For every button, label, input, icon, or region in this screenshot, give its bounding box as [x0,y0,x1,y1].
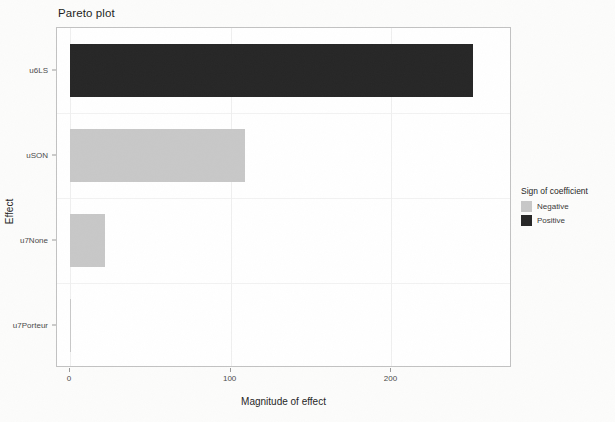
plot-area [57,28,510,366]
bar-u6LS [70,44,474,97]
x-axis-title: Magnitude of effect [56,396,511,407]
y-tick-label-uSON: uSON [26,150,52,159]
bar-u7None [70,214,105,267]
x-tick-mark [69,368,70,372]
x-tick-label-100: 100 [223,374,236,383]
page-title: Pareto plot [58,7,115,19]
y-tick-mark [52,69,56,70]
x-tick-label-200: 200 [384,374,397,383]
y-axis-title-label: Effect [5,198,16,223]
legend-entries: NegativePositive [521,200,613,227]
y-tick-mark [52,324,56,325]
gridline-horizontal [57,113,510,114]
legend-swatch-icon [521,201,532,212]
legend-label: Negative [537,202,569,211]
y-tick-label-u7None: u7None [20,235,52,244]
y-axis-title: Effect [2,0,18,422]
legend-title: Sign of coefficient [521,186,613,196]
y-tick-label-u7Porteur: u7Porteur [13,320,52,329]
plot-panel [56,27,511,367]
legend-swatch-icon [521,215,532,226]
y-tick-label-u6LS: u6LS [29,65,52,74]
x-tick-label-0: 0 [67,374,71,383]
legend-label: Positive [537,216,565,225]
legend: Sign of coefficient NegativePositive [521,186,613,228]
legend-item-negative: Negative [521,200,613,213]
legend-item-positive: Positive [521,214,613,227]
x-tick-mark [230,368,231,372]
gridline-horizontal [57,283,510,284]
y-tick-mark [52,154,56,155]
chart-root: Pareto plot Effect u6LSuSONu7Noneu7Porte… [0,0,615,422]
x-tick-mark [390,368,391,372]
bar-uSON [70,129,245,182]
y-tick-mark [52,239,56,240]
gridline-horizontal [57,198,510,199]
bar-u7Porteur [70,299,72,352]
